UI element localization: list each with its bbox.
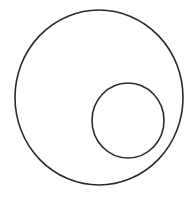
diagram-canvas xyxy=(0,0,192,201)
inner-circle xyxy=(92,83,164,158)
nested-circles-diagram xyxy=(0,0,192,201)
